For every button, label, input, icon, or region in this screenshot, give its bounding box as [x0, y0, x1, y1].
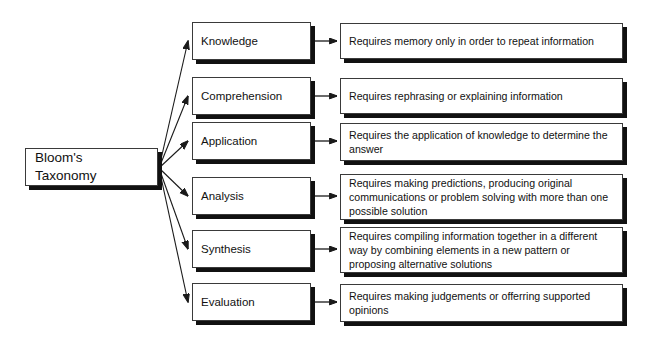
description-text-analysis: Requires making predictions, producing o…: [349, 176, 615, 219]
level-label-knowledge: Knowledge: [201, 34, 310, 49]
level-box-comprehension[interactable]: Comprehension: [192, 77, 311, 115]
description-text-evaluation: Requires making judgements or offerring …: [349, 289, 615, 317]
description-box-analysis[interactable]: Requires making predictions, producing o…: [340, 174, 623, 220]
root-node-blooms-taxonomy[interactable]: Bloom's Taxonomy: [25, 148, 158, 186]
level-box-application[interactable]: Application: [192, 122, 311, 160]
level-box-analysis[interactable]: Analysis: [192, 177, 311, 215]
diagram-canvas: Bloom's Taxonomy Knowledge Comprehension…: [0, 0, 651, 340]
description-text-knowledge: Requires memory only in order to repeat …: [349, 34, 615, 48]
level-label-analysis: Analysis: [201, 189, 310, 204]
level-box-knowledge[interactable]: Knowledge: [192, 22, 311, 60]
description-text-comprehension: Requires rephrasing or explaining inform…: [349, 89, 615, 103]
description-box-knowledge[interactable]: Requires memory only in order to repeat …: [340, 23, 623, 59]
root-node-label: Bloom's Taxonomy: [35, 149, 157, 185]
level-to-description-connectors: [313, 41, 337, 302]
description-box-synthesis[interactable]: Requires compiling information together …: [340, 227, 623, 273]
level-box-evaluation[interactable]: Evaluation: [192, 283, 311, 321]
level-label-evaluation: Evaluation: [201, 295, 310, 310]
description-text-synthesis: Requires compiling information together …: [349, 229, 615, 272]
description-box-evaluation[interactable]: Requires making judgements or offerring …: [340, 284, 623, 322]
level-label-comprehension: Comprehension: [201, 89, 310, 104]
level-label-synthesis: Synthesis: [201, 242, 310, 257]
root-to-level-connectors: [159, 41, 188, 302]
level-box-synthesis[interactable]: Synthesis: [192, 230, 311, 268]
level-label-application: Application: [201, 134, 310, 149]
description-box-application[interactable]: Requires the application of knowledge to…: [340, 123, 623, 161]
description-text-application: Requires the application of knowledge to…: [349, 128, 615, 156]
description-box-comprehension[interactable]: Requires rephrasing or explaining inform…: [340, 78, 623, 114]
